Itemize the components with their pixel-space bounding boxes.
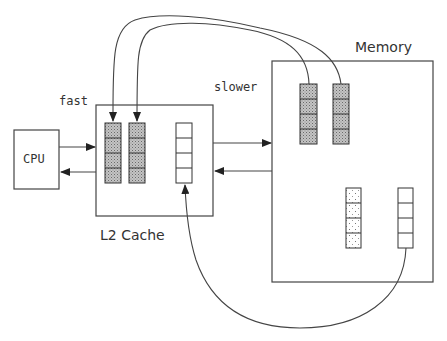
slower-label: slower: [214, 81, 257, 93]
memory-block-3: [346, 188, 361, 248]
l2-cache-label: L2 Cache: [100, 228, 165, 242]
cache-block-2: [129, 123, 145, 183]
memory-block-4: [398, 188, 413, 248]
memory-label: Memory: [355, 40, 412, 54]
memory-block-1: [300, 84, 317, 144]
fast-label: fast: [59, 95, 88, 107]
cache-block-1: [105, 123, 121, 183]
cpu-label: CPU: [23, 153, 45, 165]
memory-block-2: [333, 84, 349, 144]
cache-block-3: [176, 123, 192, 183]
memory-box: [272, 61, 433, 282]
